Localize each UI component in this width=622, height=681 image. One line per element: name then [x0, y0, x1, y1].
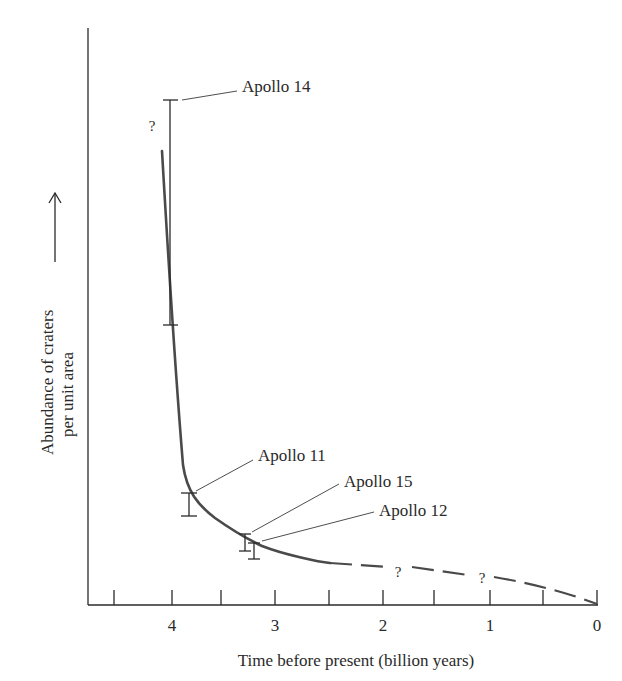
- x-tick-label-0: 0: [593, 616, 602, 635]
- cratering-curve-solid: [162, 151, 330, 563]
- leader-apollo12: [262, 512, 374, 541]
- leader-apollo11: [196, 460, 253, 491]
- crater-abundance-chart: 4 3 2 1 0 Time before present (billion y…: [0, 0, 622, 681]
- cratering-curve-dashed-1: [330, 563, 388, 567]
- x-axis-title: Time before present (billion years): [238, 651, 474, 670]
- label-apollo11: Apollo 11: [258, 446, 326, 465]
- question-mark-apollo14: ?: [149, 118, 156, 134]
- x-tick-label-2: 2: [379, 616, 388, 635]
- label-apollo12: Apollo 12: [379, 501, 447, 520]
- label-apollo15: Apollo 15: [344, 472, 412, 491]
- leader-apollo14: [182, 91, 237, 100]
- y-axis-title-line1: Abundance of craters: [38, 310, 57, 455]
- cratering-curve-dashed-3: [494, 577, 597, 604]
- question-mark-2: ?: [395, 564, 402, 580]
- x-tick-label-3: 3: [271, 616, 280, 635]
- y-axis-title-line2: per unit area: [58, 352, 77, 437]
- label-apollo14: Apollo 14: [242, 77, 311, 96]
- y-axis-title: Abundance of craters per unit area: [38, 310, 77, 455]
- x-axis-ticks: [114, 590, 597, 605]
- x-tick-label-1: 1: [486, 616, 495, 635]
- x-tick-label-4: 4: [168, 616, 177, 635]
- cratering-curve-dashed-2: [412, 567, 468, 575]
- question-mark-1: ?: [479, 570, 486, 586]
- y-axis-arrow-icon: [49, 193, 61, 262]
